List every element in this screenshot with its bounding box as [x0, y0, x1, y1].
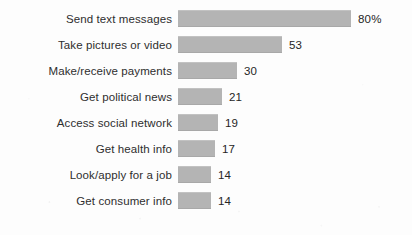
category-label: Make/receive payments — [0, 64, 172, 77]
value-label: 21 — [229, 90, 242, 103]
bar — [178, 88, 222, 105]
value-label: 30 — [244, 64, 257, 77]
category-label: Get political news — [0, 90, 172, 103]
bar-row: Access social network19 — [0, 114, 412, 131]
category-label: Get consumer info — [0, 194, 172, 207]
value-label: 53 — [289, 38, 302, 51]
bar — [178, 140, 215, 157]
bar — [178, 62, 237, 79]
value-label: 19 — [225, 116, 238, 129]
bar-row: Send text messages80% — [0, 10, 412, 27]
bar-chart: Send text messages80%Take pictures or vi… — [0, 0, 412, 235]
category-label: Look/apply for a job — [0, 168, 172, 181]
value-label: 14 — [218, 194, 231, 207]
category-label: Send text messages — [0, 12, 172, 25]
category-label: Access social network — [0, 116, 172, 129]
value-label: 17 — [222, 142, 235, 155]
bar-row: Take pictures or video53 — [0, 36, 412, 53]
category-label: Get health info — [0, 142, 172, 155]
category-label: Take pictures or video — [0, 38, 172, 51]
bar — [178, 10, 351, 27]
bar-row: Get consumer info14 — [0, 192, 412, 209]
bar-row: Look/apply for a job14 — [0, 166, 412, 183]
bar — [178, 114, 218, 131]
value-label: 80% — [358, 12, 382, 25]
bar-row: Get health info17 — [0, 140, 412, 157]
bar-row: Get political news21 — [0, 88, 412, 105]
bar — [178, 166, 211, 183]
value-label: 14 — [218, 168, 231, 181]
bar — [178, 192, 211, 209]
bar-row: Make/receive payments30 — [0, 62, 412, 79]
bar — [178, 36, 282, 53]
